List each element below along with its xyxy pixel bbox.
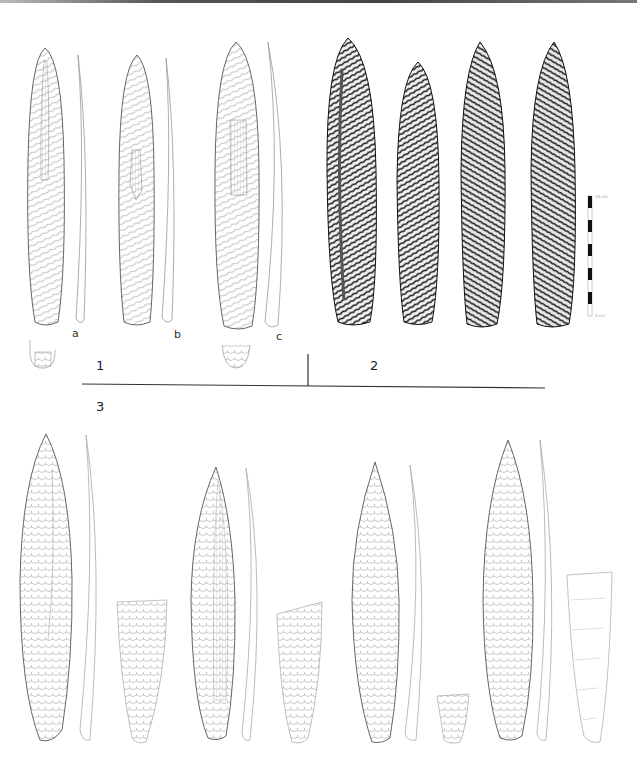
panel-label-3: 3: [96, 399, 104, 414]
item-label-b: b: [174, 328, 181, 341]
item-label-c: c: [276, 330, 282, 343]
item-label-a: a: [72, 327, 79, 340]
figure-artwork: [0, 0, 637, 759]
panel-label-1: 1: [96, 358, 104, 373]
panel-1-drawings: [28, 42, 283, 368]
scale-bar: [588, 196, 592, 316]
panel-3-drawings: [20, 434, 612, 743]
panel-label-2: 2: [370, 358, 378, 373]
scale-label-top: 10 cm: [595, 194, 607, 199]
panel-2-drawings: [327, 38, 575, 327]
scale-label-bottom: 0 cm: [595, 313, 605, 318]
panel-divider: [82, 354, 545, 388]
